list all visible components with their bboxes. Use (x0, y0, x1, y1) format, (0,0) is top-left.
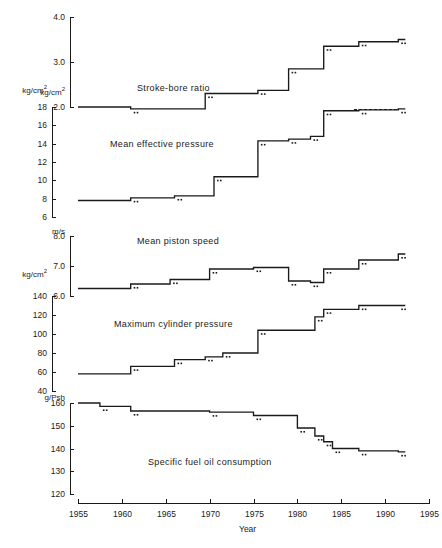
step-marker-0-5 (327, 49, 329, 51)
step-marker-2-8 (362, 263, 364, 265)
step-marker-2-7 (327, 272, 329, 274)
step-marker-1-2 (181, 199, 183, 201)
step-marker-4-4 (260, 419, 262, 421)
step-marker-3-3 (208, 360, 210, 362)
step-marker-1-9 (401, 112, 403, 114)
xtick-label-6: 1985 (330, 510, 354, 519)
step-marker-3-1 (134, 369, 136, 371)
step-marker-1-3 (220, 180, 222, 182)
xtick-label-0: 1955 (67, 510, 91, 519)
ytick-label-4-0: 120 (51, 490, 65, 499)
yaxis-unit-1: kg/cm2 (22, 84, 47, 95)
ytick-label-1-3: 12 (38, 158, 47, 167)
ytick-label-0-0: 2.0 (53, 103, 65, 112)
ytick-label-4-1: 130 (51, 467, 65, 476)
step-marker-3-2 (181, 363, 183, 365)
ytick-label-1-5: 16 (38, 121, 47, 130)
step-marker-1-9 (404, 112, 406, 114)
step-marker-2-9 (404, 257, 406, 259)
step-marker-2-4 (257, 271, 259, 273)
step-marker-0-7 (404, 43, 406, 45)
xtick-label-2: 1965 (155, 510, 179, 519)
step-marker-0-6 (365, 45, 367, 47)
step-marker-4-9 (365, 454, 367, 456)
step-marker-3-5 (264, 333, 266, 335)
step-marker-1-1 (134, 201, 136, 203)
ytick-label-4-3: 150 (51, 422, 65, 431)
ytick-label-1-6: 18 (38, 103, 47, 112)
xtick-label-3: 1970 (199, 510, 223, 519)
step-marker-3-7 (327, 312, 329, 314)
yaxis-unit-3: kg/cm2 (22, 268, 47, 279)
step-marker-4-5 (303, 431, 305, 433)
step-marker-1-5 (292, 142, 294, 144)
step-marker-2-2 (176, 283, 178, 285)
step-marker-0-5 (330, 49, 332, 51)
step-marker-0-2 (211, 97, 213, 99)
step-marker-4-6 (321, 439, 323, 441)
step-marker-1-8 (365, 113, 367, 115)
step-marker-4-3 (216, 415, 218, 417)
step-marker-1-1 (137, 201, 139, 203)
step-marker-2-7 (330, 272, 332, 274)
step-marker-1-4 (261, 144, 263, 146)
series-label-2: Mean piston speed (137, 237, 219, 246)
step-marker-4-2 (134, 414, 136, 416)
step-marker-3-3 (211, 360, 213, 362)
step-marker-1-4 (264, 144, 266, 146)
step-marker-2-3 (216, 272, 218, 274)
step-marker-1-6 (317, 139, 319, 141)
step-marker-0-6 (362, 45, 364, 47)
ytick-label-3-2: 80 (38, 349, 47, 358)
step-marker-1-2 (178, 199, 180, 201)
xtick-label-7: 1990 (374, 510, 398, 519)
step-marker-3-9 (404, 309, 406, 311)
step-marker-4-10 (404, 455, 406, 457)
step-marker-0-4 (292, 72, 294, 74)
step-marker-2-1 (134, 287, 136, 289)
step-marker-4-7 (327, 445, 329, 447)
step-marker-4-8 (339, 452, 341, 454)
step-marker-4-8 (336, 452, 338, 454)
step-marker-2-8 (365, 263, 367, 265)
step-marker-4-10 (401, 455, 403, 457)
step-marker-2-9 (401, 257, 403, 259)
step-marker-4-1 (103, 409, 105, 411)
ytick-label-0-1: 3.0 (53, 58, 65, 67)
xaxis-title: Year (239, 525, 256, 534)
step-marker-2-1 (137, 287, 139, 289)
series-label-0: Stroke-bore ratio (137, 84, 210, 93)
series-label-4: Specific fuel oil consumption (148, 458, 272, 467)
step-marker-3-7 (330, 312, 332, 314)
ytick-label-2-0: 6.0 (53, 292, 65, 301)
step-marker-3-9 (401, 309, 403, 311)
step-marker-1-7 (327, 114, 329, 116)
step-marker-2-2 (173, 283, 175, 285)
step-marker-4-1 (106, 409, 108, 411)
ytick-label-1-0: 6 (42, 213, 47, 222)
series-step-1 (78, 109, 405, 201)
step-marker-3-8 (365, 309, 367, 311)
step-marker-3-8 (362, 309, 364, 311)
step-marker-4-6 (318, 439, 320, 441)
step-marker-0-3 (261, 93, 263, 95)
yaxis-unit-2: m/s (52, 228, 65, 236)
step-marker-0-1 (134, 112, 136, 114)
step-marker-4-3 (213, 415, 215, 417)
ytick-label-0-2: 4.0 (53, 13, 65, 22)
series-step-0 (78, 40, 405, 109)
step-marker-2-5 (295, 284, 297, 286)
step-marker-2-5 (292, 284, 294, 286)
ytick-label-1-4: 14 (38, 140, 47, 149)
step-marker-2-4 (260, 271, 262, 273)
ytick-label-1-2: 10 (38, 176, 47, 185)
ytick-label-3-4: 120 (33, 311, 47, 320)
step-marker-3-4 (229, 356, 231, 358)
step-marker-4-5 (300, 431, 302, 433)
step-marker-4-2 (137, 414, 139, 416)
xtick-label-5: 1980 (286, 510, 310, 519)
step-marker-3-6 (321, 320, 323, 322)
xtick-label-1: 1960 (111, 510, 135, 519)
step-marker-0-4 (295, 72, 297, 74)
